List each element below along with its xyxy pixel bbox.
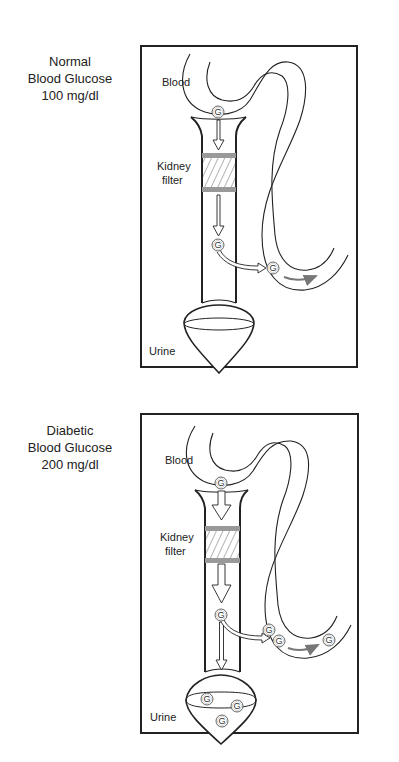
glucose-icon: G: [201, 693, 213, 705]
urine-label: Urine: [149, 345, 175, 357]
svg-text:G: G: [214, 240, 221, 250]
kidney-label-line1: Kidney: [160, 531, 194, 543]
kidney-glucose-diagram: Blood Kidney filter G G G: [0, 0, 399, 762]
svg-text:G: G: [269, 263, 276, 273]
glucose-icon: G: [323, 634, 335, 646]
kidney-filter: [202, 153, 236, 192]
glucose-icon: G: [216, 715, 228, 727]
blood-label: Blood: [162, 76, 190, 88]
glucose-icon: G: [215, 609, 227, 621]
kidney-label-line2: filter: [162, 174, 183, 186]
svg-text:G: G: [217, 610, 224, 620]
glucose-icon: G: [263, 624, 275, 636]
kidney-label-line1: Kidney: [157, 160, 191, 172]
svg-text:G: G: [217, 478, 224, 488]
glucose-icon: G: [273, 635, 285, 647]
diabetic-panel: Blood Kidney filter G G G: [141, 414, 358, 744]
kidney-label-line2: filter: [165, 545, 186, 557]
kidney-filter: [205, 526, 240, 563]
glucose-icon: G: [267, 262, 279, 274]
svg-text:G: G: [325, 635, 332, 645]
glucose-icon: G: [215, 477, 227, 489]
glucose-icon: G: [212, 106, 224, 118]
svg-text:G: G: [265, 625, 272, 635]
urine-label: Urine: [150, 711, 176, 723]
normal-panel: Blood Kidney filter G G G: [141, 46, 357, 373]
svg-text:G: G: [233, 701, 240, 711]
svg-text:G: G: [218, 716, 225, 726]
glucose-icon: G: [231, 700, 243, 712]
svg-text:G: G: [275, 636, 282, 646]
glucose-icon: G: [212, 239, 224, 251]
blood-label: Blood: [165, 454, 193, 466]
svg-text:G: G: [214, 107, 221, 117]
svg-text:G: G: [203, 694, 210, 704]
